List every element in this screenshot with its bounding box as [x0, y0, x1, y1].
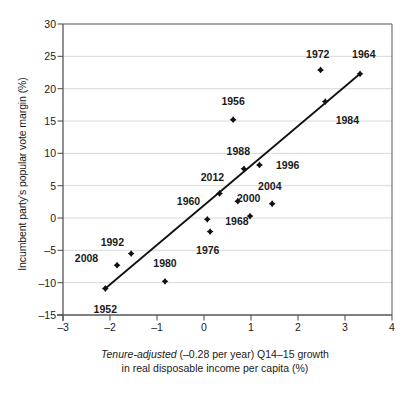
x-tick-label: 3	[342, 321, 348, 333]
x-tick-label: –1	[151, 321, 163, 333]
data-point-marker	[241, 165, 248, 172]
point-label-1988: 1988	[227, 145, 250, 157]
data-point-marker	[128, 250, 135, 257]
data-point-marker	[317, 67, 324, 74]
x-tick-label: 0	[201, 321, 207, 333]
point-label-1980: 1980	[153, 257, 176, 269]
axis-lines	[57, 24, 392, 321]
data-point-marker	[230, 116, 237, 123]
gridlines	[63, 24, 392, 315]
x-axis-title-line1-rest: (–0.28 per year) Q14–15 growth	[177, 348, 329, 360]
point-label-1960: 1960	[177, 195, 200, 207]
point-label-2008: 2008	[75, 252, 98, 264]
x-axis-title-line2: in real disposable income per capita (%)	[122, 362, 309, 374]
data-point-marker	[162, 278, 169, 285]
point-label-1992: 1992	[101, 236, 124, 248]
point-label-2000: 2000	[237, 192, 260, 204]
data-point-marker	[204, 216, 211, 223]
point-label-1984: 1984	[336, 114, 359, 126]
point-label-1996: 1996	[276, 159, 299, 171]
x-tick-label: 1	[248, 321, 254, 333]
x-tick-label: –3	[57, 321, 69, 333]
point-label-2004: 2004	[258, 180, 281, 192]
data-point-marker	[207, 228, 214, 235]
data-point-marker	[256, 162, 263, 169]
point-label-1972: 1972	[306, 48, 329, 60]
scatter-chart-figure: Incumbent party's popular vote margin (%…	[0, 0, 417, 395]
x-axis-title: Tenure-adjusted (–0.28 per year) Q14–15 …	[40, 347, 390, 375]
x-axis-title-emphasis: Tenure-adjusted	[101, 348, 177, 360]
data-point-marker	[114, 262, 121, 269]
x-tick-label: 2	[295, 321, 301, 333]
tick-marks	[58, 24, 393, 321]
point-label-1968: 1968	[225, 215, 248, 227]
point-label-1976: 1976	[196, 244, 219, 256]
point-label-1964: 1964	[352, 48, 375, 60]
point-label-1952: 1952	[94, 303, 117, 315]
x-tick-label: 4	[389, 321, 395, 333]
point-label-2012: 2012	[201, 171, 224, 183]
x-tick-label: –2	[104, 321, 116, 333]
point-label-1956: 1956	[221, 95, 244, 107]
data-point-marker	[269, 200, 276, 207]
